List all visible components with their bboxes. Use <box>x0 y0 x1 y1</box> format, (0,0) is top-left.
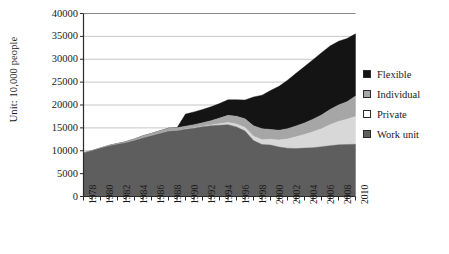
x-tick-label: 1980 <box>105 184 114 203</box>
x-tick-label: 2000 <box>275 184 284 203</box>
x-tick-label: 1992 <box>207 184 216 203</box>
x-tick-label: 2002 <box>292 184 301 203</box>
legend-item[interactable]: Flexible <box>363 64 449 84</box>
x-tick-label: 2008 <box>343 184 352 203</box>
legend-swatch-icon <box>363 130 371 138</box>
x-tick-label: 1986 <box>156 184 165 203</box>
legend-item[interactable]: Private <box>363 104 449 124</box>
x-tick-label: 1982 <box>122 184 131 203</box>
legend-swatch-icon <box>363 70 371 78</box>
legend-item[interactable]: Individual <box>363 84 449 104</box>
x-tick-label: 1990 <box>190 184 199 203</box>
legend-swatch-icon <box>363 110 371 118</box>
x-tick-label: 1994 <box>224 184 233 203</box>
x-tick-label: 1996 <box>241 184 250 203</box>
legend-item[interactable]: Work unit <box>363 124 449 144</box>
legend-item-label: Flexible <box>377 69 411 80</box>
x-tick-label: 2004 <box>309 184 318 203</box>
x-tick-label: 1988 <box>173 184 182 203</box>
x-tick-label: 1998 <box>258 184 267 203</box>
x-tick-label: 1978 <box>88 184 97 203</box>
y-axis-title: Unit: 10,000 people <box>8 5 19 155</box>
x-tick-label: 2006 <box>326 184 335 203</box>
x-tick-label: 2010 <box>360 184 369 203</box>
legend-item-label: Individual <box>377 89 420 100</box>
chart-legend: FlexibleIndividualPrivateWork unit <box>363 64 449 144</box>
stacked-area-chart: 0500010000150002000025000300003500040000… <box>0 0 449 254</box>
x-tick-label: 1984 <box>139 184 148 203</box>
legend-item-label: Work unit <box>377 129 419 140</box>
legend-swatch-icon <box>363 90 371 98</box>
legend-item-label: Private <box>377 109 407 120</box>
